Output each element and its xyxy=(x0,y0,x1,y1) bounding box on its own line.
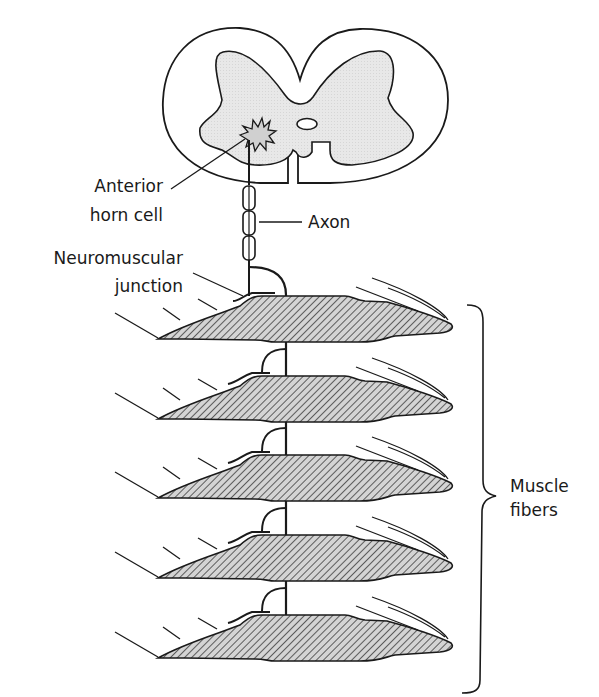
fibril-line xyxy=(198,538,217,549)
fibril-line xyxy=(163,467,180,479)
muscle-fiber xyxy=(115,349,452,422)
fibril-line xyxy=(115,393,158,418)
nerve-branch xyxy=(262,588,286,611)
fibril-line xyxy=(163,547,180,559)
fibril-line xyxy=(198,379,217,390)
fibril-line xyxy=(115,632,158,657)
label-muscle-fibers-line1: Muscle xyxy=(510,476,569,496)
muscle-fiber-body xyxy=(158,535,452,581)
fibril-line xyxy=(198,458,217,469)
fibril-line xyxy=(115,472,158,497)
muscle-fiber-body xyxy=(158,455,452,501)
diagram-canvas: Anterior horn cell Axon Neuromuscular ju… xyxy=(0,0,599,697)
muscle-fiber-body xyxy=(158,615,452,661)
label-neuromuscular-junction-line2: junction xyxy=(114,276,183,296)
muscle-fibers xyxy=(115,278,452,661)
fibril-line xyxy=(115,313,158,338)
muscle-fiber xyxy=(115,508,452,581)
label-muscle-fibers-line2: fibers xyxy=(510,500,558,520)
fibril-line xyxy=(163,627,180,639)
label-neuromuscular-junction-line1: Neuromuscular xyxy=(54,248,183,268)
central-canal xyxy=(297,119,317,130)
fibril-line xyxy=(163,388,180,400)
fibril-line xyxy=(198,299,217,310)
muscle-fiber xyxy=(115,588,452,661)
label-anterior-horn-cell-line1: Anterior xyxy=(94,176,163,196)
spinal-cord-cross-section xyxy=(163,28,448,183)
label-anterior-horn-cell-line2: horn cell xyxy=(90,205,163,225)
nerve-branch xyxy=(262,508,286,531)
fibril-line xyxy=(115,552,158,577)
motor-unit-diagram: Anterior horn cell Axon Neuromuscular ju… xyxy=(0,0,599,697)
nerve-branch xyxy=(262,349,286,372)
label-axon: Axon xyxy=(308,212,350,232)
nerve-branch xyxy=(262,428,286,451)
muscle-fibers-brace xyxy=(462,305,496,693)
neuromuscular-junction-leader xyxy=(193,273,243,296)
fibril-line xyxy=(163,308,180,320)
fibril-line xyxy=(198,618,217,629)
muscle-fiber xyxy=(115,428,452,501)
muscle-fiber-body xyxy=(158,296,452,342)
muscle-fiber-body xyxy=(158,376,452,422)
